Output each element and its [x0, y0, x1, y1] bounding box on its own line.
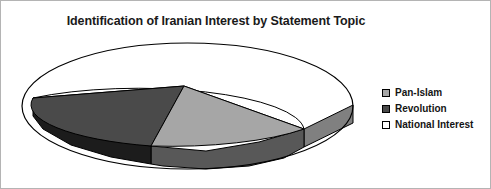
slice-side-national-interest [304, 105, 353, 147]
legend-label-revolution: Revolution [395, 103, 447, 114]
pie-3d-graphic [1, 1, 381, 189]
chart-legend: Pan-Islam Revolution National Interest [382, 85, 490, 133]
pie-chart-figure: Identification of Iranian Interest by St… [0, 0, 491, 189]
national-interest-swatch-icon [382, 121, 390, 129]
legend-item-pan-islam[interactable]: Pan-Islam [382, 85, 490, 100]
legend-label-national-interest: National Interest [395, 119, 473, 130]
legend-item-revolution[interactable]: Revolution [382, 101, 490, 116]
pan-islam-swatch-icon [382, 89, 390, 97]
pie-plot-area [1, 1, 381, 189]
legend-item-national-interest[interactable]: National Interest [382, 117, 490, 132]
legend-label-pan-islam: Pan-Islam [395, 87, 442, 98]
revolution-swatch-icon [382, 105, 390, 113]
